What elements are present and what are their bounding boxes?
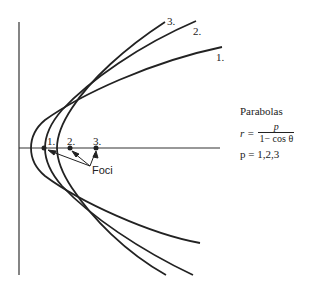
foci-label: Foci: [92, 165, 113, 176]
equation-fraction: p 1− cos θ: [258, 121, 294, 144]
polar-equation: r = p 1− cos θ: [240, 121, 294, 144]
parabola-1: [31, 47, 222, 243]
focus-1-point: [42, 146, 47, 151]
parameter-values: p = 1,2,3: [240, 148, 279, 160]
equation-denominator: 1− cos θ: [258, 132, 294, 144]
curve-label-1: 1.: [216, 52, 224, 63]
curve-label-2: 2.: [193, 26, 201, 37]
foci-pointer-arrows: [48, 150, 98, 166]
equation-numerator: p: [274, 121, 279, 132]
curve-label-3: 3.: [167, 16, 175, 27]
focus-label-3: 3.: [93, 136, 101, 147]
focus-label-1: 1.: [47, 136, 55, 147]
equation-lhs: r =: [240, 127, 254, 139]
focus-label-2: 2.: [67, 136, 75, 147]
legend-title: Parabolas: [240, 105, 283, 117]
